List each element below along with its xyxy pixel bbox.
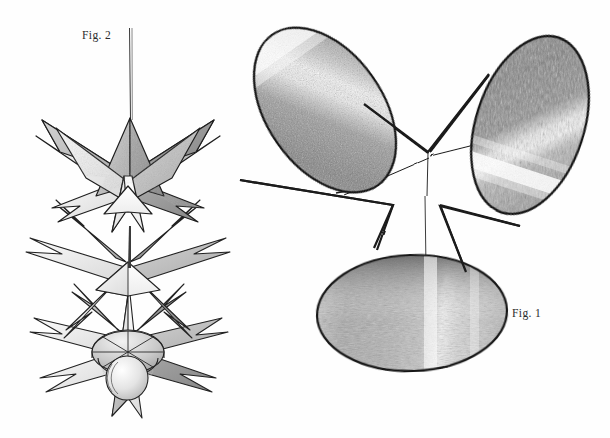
fig1-upper-left-disc: [205, 0, 426, 219]
fig2-upper-star-tier: [36, 118, 220, 232]
figure-1-label: Fig. 1: [512, 307, 541, 319]
figure-2-label: Fig. 2: [82, 29, 111, 41]
fig1-bottom-disc: [315, 252, 510, 375]
figure-1-group: [205, 0, 610, 375]
drawing-sheet: Fig. 2 Fig. 1: [0, 0, 610, 438]
fig2-base-assembly: [92, 330, 164, 400]
drawing-canvas: [0, 0, 610, 438]
fig1-upper-right-disc: [450, 21, 610, 229]
fig2-hanging-wire: [130, 28, 133, 120]
figure-2-group: [26, 28, 230, 418]
